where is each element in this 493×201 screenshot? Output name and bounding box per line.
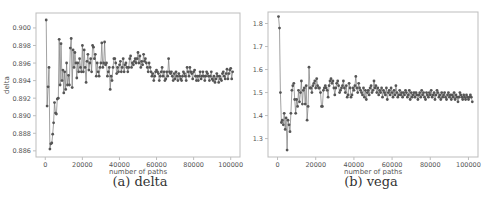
data-point [116, 66, 119, 69]
data-point [60, 42, 63, 45]
data-point [76, 62, 79, 65]
data-point [148, 62, 151, 65]
data-point [405, 91, 408, 94]
data-point [153, 75, 156, 78]
data-point [90, 70, 93, 73]
data-point [391, 91, 394, 94]
data-point [125, 62, 128, 65]
data-point [73, 66, 76, 69]
data-point [408, 89, 411, 92]
data-point [215, 78, 218, 81]
data-point [210, 70, 213, 73]
data-point [450, 98, 453, 101]
y-tick-label: 0.896 [12, 60, 31, 68]
data-point [306, 119, 309, 122]
data-point [86, 60, 89, 63]
data-point [164, 78, 167, 81]
data-point [99, 66, 102, 69]
data-point [299, 91, 302, 94]
data-point [209, 75, 212, 78]
data-point [355, 87, 358, 90]
data-point [96, 62, 99, 65]
data-point [375, 91, 378, 94]
data-point [98, 75, 101, 78]
data-point [197, 79, 200, 82]
data-point [225, 72, 228, 75]
data-point [175, 70, 178, 73]
data-point [157, 72, 160, 75]
vega-chart-panel: 1.31.41.51.61.71.80200004000060000800001… [246, 0, 493, 201]
data-point [57, 97, 60, 100]
data-point [85, 81, 88, 84]
data-point [422, 91, 425, 94]
data-point [174, 78, 177, 81]
data-point [58, 38, 61, 41]
data-point [222, 70, 225, 73]
data-point [213, 75, 216, 78]
data-point [191, 78, 194, 81]
x-tick-label: 100000 [456, 161, 481, 169]
data-point [298, 100, 301, 103]
data-point [334, 87, 337, 90]
data-point [395, 84, 398, 87]
data-point [290, 112, 293, 115]
y-tick-label: 1.5 [253, 89, 263, 97]
data-point [107, 70, 110, 73]
data-point [445, 98, 448, 101]
data-point [226, 68, 229, 71]
data-point [81, 44, 84, 47]
data-point [139, 66, 142, 69]
data-point [83, 49, 86, 52]
data-point [282, 123, 285, 126]
data-point [71, 86, 74, 89]
data-point [375, 84, 378, 87]
data-point [314, 87, 317, 90]
data-point [120, 70, 123, 73]
vega-plot-frame [268, 12, 478, 157]
data-point [149, 66, 152, 69]
data-point [121, 66, 124, 69]
data-point [89, 57, 92, 60]
data-point [206, 72, 209, 75]
data-point [51, 133, 54, 136]
data-point [77, 70, 80, 73]
data-point [376, 87, 379, 90]
data-point [230, 78, 233, 81]
data-point [283, 112, 286, 115]
data-point [310, 87, 313, 90]
x-tick-label: 80000 [183, 161, 204, 169]
data-point [348, 82, 351, 85]
data-point [95, 75, 98, 78]
data-point [72, 49, 75, 52]
data-point [300, 80, 303, 83]
y-tick-label: 0.886 [12, 147, 31, 155]
data-point [130, 66, 133, 69]
data-point [349, 87, 352, 90]
data-point [289, 130, 292, 133]
x-tick-label: 80000 [420, 161, 441, 169]
data-point [424, 98, 427, 101]
data-point [277, 15, 280, 18]
data-point [305, 84, 308, 87]
data-point [171, 75, 174, 78]
data-point [109, 88, 112, 91]
y-tick-label: 1.7 [253, 43, 263, 51]
data-point [137, 51, 140, 54]
data-point [228, 72, 231, 75]
data-point [418, 91, 421, 94]
data-point [353, 89, 356, 92]
data-point [430, 89, 433, 92]
data-point [151, 72, 154, 75]
data-point [92, 46, 95, 49]
data-point [50, 142, 53, 145]
data-point [100, 62, 103, 65]
data-point [87, 53, 90, 56]
data-point [368, 94, 371, 97]
data-point [285, 117, 288, 120]
vega-caption: (b) vega [246, 174, 493, 189]
data-point [343, 87, 346, 90]
y-tick-label: 0.890 [12, 112, 31, 120]
data-point [203, 79, 206, 82]
data-point [145, 62, 148, 65]
data-point [354, 84, 357, 87]
